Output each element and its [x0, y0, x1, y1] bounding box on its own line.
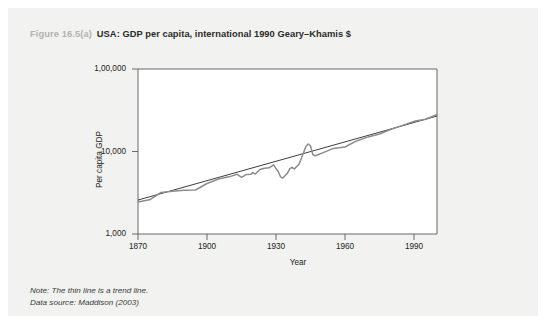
x-tick-label-1960: 1960 [322, 242, 368, 251]
x-axis-label: Year [270, 258, 326, 267]
chart-container: Per capita GDP 1,00,000 10,000 1,000 187… [8, 8, 538, 316]
figure-card: Figure 16.5(a)USA: GDP per capita, inter… [8, 8, 538, 316]
y-axis-ticks [132, 69, 138, 234]
y-tick-label-100000: 1,00,000 [70, 64, 126, 73]
x-tick-label-1990: 1990 [391, 242, 437, 251]
x-tick-label-1900: 1900 [184, 242, 230, 251]
x-tick-label-1930: 1930 [253, 242, 299, 251]
x-tick-label-1870: 1870 [115, 242, 161, 251]
figure-notes: Note: The thin line is a trend line. Dat… [30, 285, 148, 308]
y-tick-label-1000: 1,000 [70, 229, 126, 238]
y-axis-label-text: Per capita GDP [95, 115, 104, 205]
note-trend-line: Note: The thin line is a trend line. [30, 285, 148, 297]
x-axis-ticks [138, 234, 414, 240]
y-axis-label: Per capita GDP [86, 113, 100, 213]
note-data-source: Data source: Maddison (2003) [30, 297, 148, 309]
plot-frame [138, 69, 437, 234]
y-tick-label-10000: 10,000 [70, 147, 126, 156]
